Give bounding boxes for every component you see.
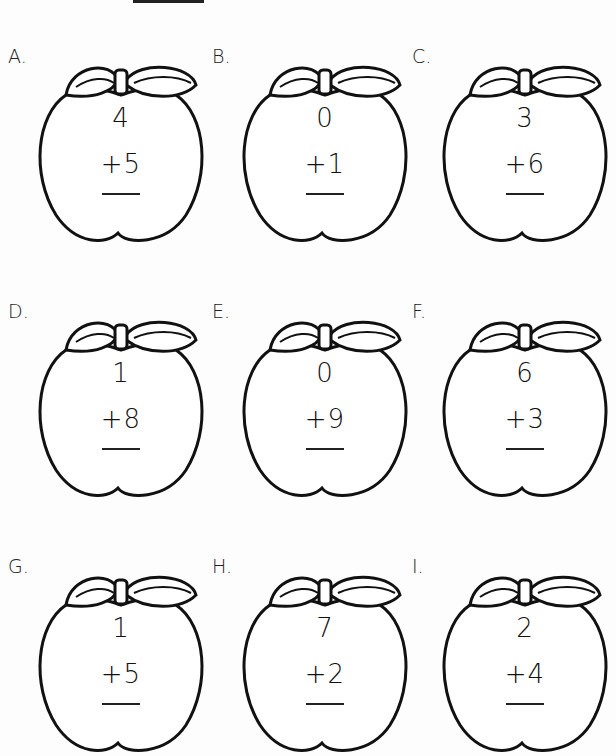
answer-line xyxy=(306,703,344,705)
problem-label: I. xyxy=(412,555,424,577)
addend-top: 1 xyxy=(26,613,216,643)
problem-label: E. xyxy=(212,300,230,322)
answer-line xyxy=(506,448,544,450)
name-underline xyxy=(133,0,204,3)
apple: 0 +1 xyxy=(230,45,420,255)
answer-line xyxy=(102,703,140,705)
addend-bottom: +1 xyxy=(230,149,420,179)
apple-icon xyxy=(26,555,216,756)
apple: 0 +9 xyxy=(230,300,420,510)
problem-card: A. 4 +5 xyxy=(8,45,208,285)
problem-card: H. 7 +2 xyxy=(212,555,412,756)
problem-label: C. xyxy=(412,45,431,67)
problem-card: C. 3 +6 xyxy=(412,45,612,285)
addend-bottom: +5 xyxy=(26,149,216,179)
addend-bottom: +2 xyxy=(230,659,420,689)
problem-card: E. 0 +9 xyxy=(212,300,412,540)
addend-top: 3 xyxy=(430,103,616,133)
addend-top: 4 xyxy=(26,103,216,133)
addend-top: 2 xyxy=(430,613,616,643)
answer-line xyxy=(102,448,140,450)
answer-line xyxy=(102,193,140,195)
answer-line xyxy=(506,193,544,195)
apple: 6 +3 xyxy=(430,300,616,510)
answer-line xyxy=(506,703,544,705)
addend-top: 7 xyxy=(230,613,420,643)
problem-card: F. 6 +3 xyxy=(412,300,612,540)
problem-label: H. xyxy=(212,555,232,577)
problem-card: I. 2 +4 xyxy=(412,555,612,756)
apple-icon xyxy=(430,555,616,756)
problem-card: B. 0 +1 xyxy=(212,45,412,285)
problem-label: A. xyxy=(8,45,27,67)
problem-label: F. xyxy=(412,300,426,322)
addend-bottom: +3 xyxy=(430,404,616,434)
problem-card: G. 1 +5 xyxy=(8,555,208,756)
answer-line xyxy=(306,193,344,195)
addend-top: 6 xyxy=(430,358,616,388)
apple: 1 +5 xyxy=(26,555,216,756)
problem-label: B. xyxy=(212,45,230,67)
apple: 7 +2 xyxy=(230,555,420,756)
addend-bottom: +4 xyxy=(430,659,616,689)
addend-bottom: +6 xyxy=(430,149,616,179)
addend-top: 0 xyxy=(230,358,420,388)
apple: 4 +5 xyxy=(26,45,216,255)
addend-bottom: +5 xyxy=(26,659,216,689)
apple: 1 +8 xyxy=(26,300,216,510)
addend-top: 1 xyxy=(26,358,216,388)
problem-card: D. 1 +8 xyxy=(8,300,208,540)
apple-icon xyxy=(230,555,420,756)
addend-top: 0 xyxy=(230,103,420,133)
apple: 2 +4 xyxy=(430,555,616,756)
addend-bottom: +9 xyxy=(230,404,420,434)
answer-line xyxy=(306,448,344,450)
addend-bottom: +8 xyxy=(26,404,216,434)
apple: 3 +6 xyxy=(430,45,616,255)
